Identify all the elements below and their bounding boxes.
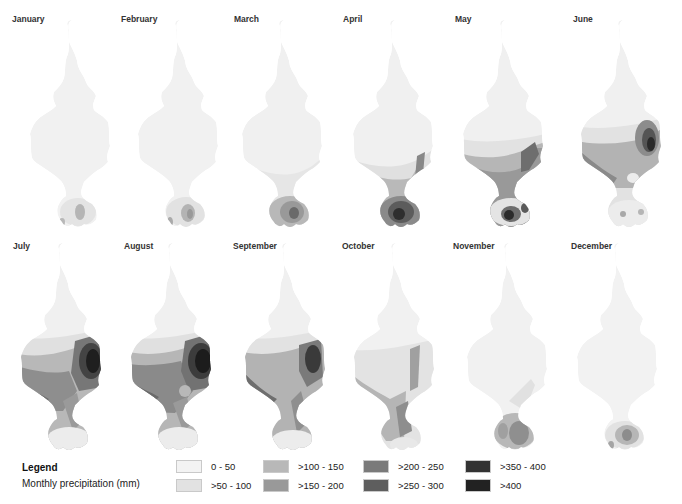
legend-label: >250 - 300 bbox=[398, 480, 444, 491]
legend-swatch bbox=[363, 479, 389, 492]
map-panel-february: February bbox=[121, 14, 233, 236]
legend-item-0-50: 0 - 50 bbox=[176, 459, 235, 473]
map-panel-april: April bbox=[343, 14, 455, 236]
legend-item-200-250: >200 - 250 bbox=[363, 459, 444, 473]
legend-label: >350 - 400 bbox=[500, 461, 546, 472]
legend-swatch bbox=[263, 460, 289, 473]
legend-item-250-300: >250 - 300 bbox=[363, 478, 444, 492]
legend-item-50-100: >50 - 100 bbox=[176, 478, 251, 492]
precipitation-map bbox=[455, 14, 567, 236]
legend-swatch bbox=[465, 479, 491, 492]
legend-swatch bbox=[465, 460, 491, 473]
map-panel-may: May bbox=[455, 14, 567, 236]
legend-item-350-400: >350 - 400 bbox=[465, 459, 546, 473]
precipitation-map bbox=[453, 241, 565, 463]
map-panel-september: September bbox=[233, 241, 345, 463]
precipitation-map bbox=[342, 241, 454, 463]
legend-swatch bbox=[176, 460, 202, 473]
precipitation-map bbox=[12, 14, 124, 236]
map-panel-march: March bbox=[234, 14, 346, 236]
legend-label: >200 - 250 bbox=[398, 461, 444, 472]
map-panel-december: December bbox=[571, 241, 682, 463]
map-panel-june: June bbox=[573, 14, 682, 236]
legend-label: >50 - 100 bbox=[211, 480, 251, 491]
precipitation-map bbox=[233, 241, 345, 463]
legend-item-150-200: >150 - 200 bbox=[263, 478, 344, 492]
legend-subtitle: Monthly precipitation (mm) bbox=[22, 478, 140, 489]
precipitation-map bbox=[573, 14, 682, 236]
map-panel-january: January bbox=[12, 14, 124, 236]
precipitation-map bbox=[234, 14, 346, 236]
legend-label: >400 bbox=[500, 480, 521, 491]
precipitation-map bbox=[571, 241, 682, 463]
legend-swatch bbox=[263, 479, 289, 492]
legend-swatch bbox=[363, 460, 389, 473]
precipitation-map bbox=[13, 241, 125, 463]
precipitation-map bbox=[121, 14, 233, 236]
map-panel-october: October bbox=[342, 241, 454, 463]
precipitation-map bbox=[124, 241, 236, 463]
legend-swatch bbox=[176, 479, 202, 492]
precipitation-map bbox=[343, 14, 455, 236]
legend-item-400-plus: >400 bbox=[465, 478, 521, 492]
legend-label: 0 - 50 bbox=[211, 461, 235, 472]
legend-item-100-150: >100 - 150 bbox=[263, 459, 344, 473]
map-panel-november: November bbox=[453, 241, 565, 463]
legend-label: >150 - 200 bbox=[298, 480, 344, 491]
legend-title: Legend bbox=[22, 462, 58, 473]
legend-label: >100 - 150 bbox=[298, 461, 344, 472]
map-panel-july: July bbox=[13, 241, 125, 463]
legend: Legend Monthly precipitation (mm) 0 - 50… bbox=[0, 455, 682, 500]
map-panel-august: August bbox=[124, 241, 236, 463]
